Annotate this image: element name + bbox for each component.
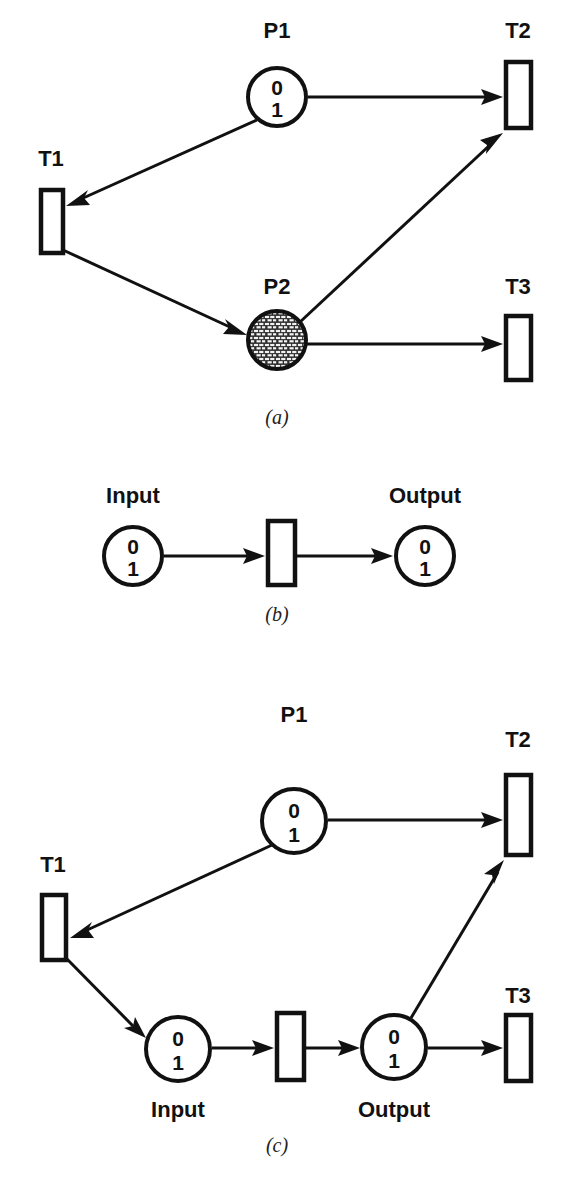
transition-t1-c-bar[interactable] [42, 895, 66, 960]
transition-t1-c[interactable]: T1 [40, 852, 66, 960]
place-output-token-0: 0 [419, 535, 431, 558]
transition-c-middle-bar[interactable] [277, 1013, 304, 1080]
panel-b-caption: (b) [265, 603, 289, 626]
place-input-c[interactable]: 0 1 Input [146, 1017, 210, 1122]
transition-t3[interactable]: T3 [505, 274, 531, 380]
place-output-c-token-0: 0 [388, 1025, 400, 1048]
transition-c-middle[interactable] [277, 1013, 304, 1080]
transition-t2-label: T2 [505, 18, 531, 43]
arc-tbc-to-outputc [306, 1040, 360, 1056]
transition-b[interactable] [268, 521, 295, 585]
arc-inputc-to-tbc [212, 1040, 274, 1056]
transition-t2-c-bar[interactable] [506, 775, 531, 855]
place-output-c-label: Output [358, 1097, 431, 1122]
transition-t3-bar[interactable] [506, 316, 531, 380]
place-p2-label: P2 [264, 274, 291, 299]
transition-t1[interactable]: T1 [38, 146, 64, 253]
place-output-token-1: 1 [419, 557, 431, 580]
arc-input-to-transition [164, 548, 265, 564]
transition-t3-c[interactable]: T3 [505, 983, 531, 1081]
arc-p1c-to-t2c [328, 812, 503, 828]
transition-t3-c-label: T3 [505, 983, 531, 1008]
place-p2[interactable]: P2 [248, 274, 306, 369]
arc-p1c-to-t1c [70, 845, 272, 938]
place-p1-c-token-0: 0 [288, 799, 300, 822]
panel-a: P1 0 1 P2 T1 T2 T3 [38, 18, 531, 429]
place-input-c-token-1: 1 [172, 1051, 184, 1074]
panel-a-caption: (a) [265, 406, 289, 429]
transition-t2-c[interactable]: T2 [505, 727, 531, 855]
arc-p1-to-t1 [66, 120, 257, 206]
transition-t1-label: T1 [38, 146, 64, 171]
arc-transition-to-output [297, 548, 393, 564]
place-p1-token-1: 1 [271, 98, 283, 121]
panel-c-caption: (c) [266, 1134, 289, 1157]
place-input[interactable]: Input 0 1 [104, 483, 162, 585]
arc-outputc-to-t3c [428, 1040, 503, 1056]
transition-t2[interactable]: T2 [505, 18, 531, 128]
petri-net-figure: P1 0 1 P2 T1 T2 T3 [0, 0, 570, 1189]
place-output-label: Output [389, 483, 462, 508]
place-output-c[interactable]: 0 1 Output [358, 1015, 431, 1122]
transition-t1-c-label: T1 [40, 852, 66, 877]
arc-t1c-to-inputc [66, 958, 146, 1038]
arc-p1-to-t2 [308, 89, 503, 105]
transition-t3-label: T3 [505, 274, 531, 299]
place-p1[interactable]: P1 0 1 [248, 18, 306, 126]
place-input-token-1: 1 [127, 557, 139, 580]
transition-t1-bar[interactable] [41, 190, 63, 253]
place-output[interactable]: Output 0 1 [389, 483, 462, 585]
transition-t2-c-label: T2 [505, 727, 531, 752]
place-p1-label: P1 [264, 18, 291, 43]
place-input-c-label: Input [151, 1097, 205, 1122]
place-p1-token-0: 0 [271, 76, 283, 99]
arc-t1-to-p2 [63, 250, 247, 335]
transition-t3-c-bar[interactable] [506, 1015, 531, 1081]
arc-outputc-to-t2c [411, 860, 504, 1018]
transition-b-bar[interactable] [268, 521, 295, 585]
place-p1-c[interactable]: P1 0 1 [262, 702, 326, 853]
panel-c: P1 0 1 0 1 Input 0 1 Output T1 [40, 702, 531, 1157]
petri-net-canvas: P1 0 1 P2 T1 T2 T3 [0, 0, 570, 1189]
panel-b: Input 0 1 Output 0 1 (b) [104, 483, 462, 626]
place-input-c-token-0: 0 [172, 1027, 184, 1050]
arc-p2-to-t3 [307, 336, 503, 352]
place-input-label: Input [106, 483, 160, 508]
arc-p2-to-t2 [300, 133, 503, 322]
place-p1-c-token-1: 1 [288, 823, 300, 846]
place-input-token-0: 0 [127, 535, 139, 558]
place-p2-circle-hatched[interactable] [248, 311, 306, 369]
place-output-c-token-1: 1 [388, 1049, 400, 1072]
transition-t2-bar[interactable] [506, 62, 531, 128]
place-p1-c-label: P1 [281, 702, 308, 727]
